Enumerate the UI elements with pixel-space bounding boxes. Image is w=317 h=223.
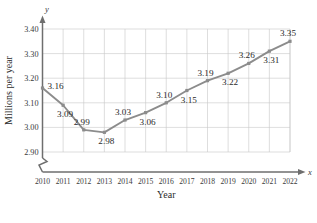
data-point-marker [62,104,65,107]
data-point-marker [247,62,250,65]
x-axis-arrow-icon [298,169,306,175]
x-axis-variable-label: x [307,167,312,177]
data-point-marker [103,131,106,134]
data-point-marker [165,101,168,104]
x-tick-label: 2021 [262,177,277,186]
data-point-label: 2.98 [98,136,114,146]
x-tick-label: 2020 [241,177,256,186]
data-point-marker [288,40,291,43]
x-axis-title: Year [157,189,176,200]
data-point-label: 3.15 [181,95,197,105]
data-point-label: 3.19 [197,68,213,78]
data-point-marker [123,118,126,121]
x-tick-labels: 2010201120122013201420152016201720182019… [35,177,298,186]
x-tick-label: 2014 [117,177,132,186]
data-point-marker [206,79,209,82]
y-tick-label: 3.40 [24,25,38,34]
data-point-label: 2.99 [74,117,90,127]
x-tick-label: 2010 [35,177,50,186]
data-point-label: 3.35 [280,28,296,38]
data-point-marker [227,72,230,75]
y-tick-label: 3.00 [24,123,38,132]
x-tick-label: 2017 [179,177,194,186]
line-chart: 2.903.003.103.203.303.40 201020112012201… [0,0,317,223]
y-tick-label: 3.10 [24,99,38,108]
data-point-label: 3.09 [57,109,73,119]
data-point-marker [185,89,188,92]
x-tick-label: 2018 [200,177,215,186]
data-point-label: 3.22 [222,77,238,87]
data-point-label: 3.16 [48,81,64,91]
data-point-label: 3.26 [239,50,255,60]
chart-canvas: 2.903.003.103.203.303.40 201020112012201… [0,0,317,223]
data-point-label: 3.10 [156,90,172,100]
data-point-marker [268,50,271,53]
x-tick-label: 2016 [159,177,174,186]
data-point-label: 3.03 [115,107,131,117]
y-axis-title: Millions per year [3,55,14,125]
x-tick-label: 2012 [76,177,91,186]
y-tick-label: 3.30 [24,50,38,59]
x-tick-label: 2013 [97,177,112,186]
x-tick-label: 2019 [221,177,236,186]
data-point-label: 3.06 [140,117,156,127]
data-point-marker [82,128,85,131]
y-axis-break-icon [39,158,47,172]
data-point-marker [41,86,44,89]
x-tick-label: 2011 [56,177,71,186]
x-tick-label: 2022 [282,177,297,186]
y-axis-variable-label: y [44,4,49,14]
y-tick-label: 3.20 [24,74,38,83]
data-point-marker [144,111,147,114]
y-axis-arrow-icon [40,16,46,24]
y-tick-label: 2.90 [24,148,38,157]
x-tick-label: 2015 [138,177,153,186]
data-point-label: 3.31 [263,55,279,65]
y-tick-labels: 2.903.003.103.203.303.40 [24,25,38,157]
